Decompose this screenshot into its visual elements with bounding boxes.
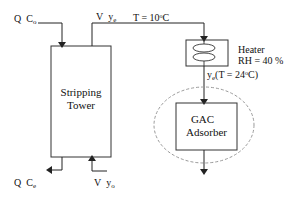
stripping-tower-label: Stripping Tower bbox=[51, 86, 111, 112]
heated-gas-label: ye(T = 24oC) bbox=[207, 68, 258, 84]
heater-label: Heater RH = 40 % bbox=[238, 44, 283, 66]
gas-outlet-label: V ye bbox=[96, 11, 116, 26]
liquid-inlet-line bbox=[38, 23, 62, 45]
gac-adsorber-label: GAC Adsorber bbox=[176, 113, 237, 139]
gas-inlet-label: V yo bbox=[94, 177, 115, 192]
gas-outlet-line bbox=[92, 23, 204, 46]
gas-inlet-line bbox=[92, 158, 107, 171]
liquid-inlet-label: Q Co bbox=[14, 13, 36, 28]
heater-coil-icon bbox=[193, 40, 215, 66]
liquid-outlet-label: Q Ce bbox=[14, 177, 36, 192]
process-flow-diagram bbox=[0, 0, 297, 197]
gas-outlet-temperature: T = 10oC bbox=[133, 11, 169, 23]
liquid-outlet-line bbox=[49, 157, 62, 170]
